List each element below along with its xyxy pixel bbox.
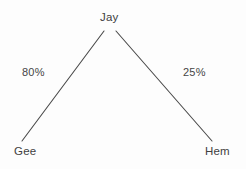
node-label-right: Hem bbox=[205, 145, 230, 158]
edge-layer bbox=[0, 0, 246, 169]
node-label-root: Jay bbox=[100, 11, 119, 24]
edge-jay-gee bbox=[22, 31, 104, 141]
edge-jay-hem bbox=[116, 31, 212, 141]
tree-diagram: Jay Gee Hem 80% 25% bbox=[0, 0, 246, 169]
edge-label-jay-hem: 25% bbox=[183, 66, 206, 79]
edge-label-jay-gee: 80% bbox=[22, 66, 45, 79]
node-label-left: Gee bbox=[14, 145, 36, 158]
